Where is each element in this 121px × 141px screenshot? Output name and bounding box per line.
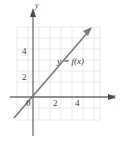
x-tick-label-2: 2: [53, 99, 58, 108]
y-axis-label: y: [35, 2, 39, 10]
origin-label: 0: [26, 99, 31, 108]
x-tick-label-4: 4: [75, 99, 80, 108]
graph-figure: 4 2 0 2 4 x y y = f(x): [0, 0, 121, 141]
function-equation-label: y = f(x): [57, 57, 84, 66]
x-axis-label: x: [112, 93, 116, 101]
y-tick-label-4: 4: [22, 47, 27, 56]
plot-canvas: [0, 0, 121, 141]
y-tick-label-2: 2: [22, 73, 27, 82]
